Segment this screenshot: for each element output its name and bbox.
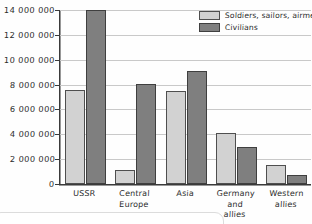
legend-label: Civilians: [225, 23, 258, 32]
bar: [287, 175, 307, 184]
chart-screenshot: 14 000 00012 000 00010 000 0008 000 0006…: [0, 0, 312, 224]
bar-group: [65, 10, 106, 184]
bar-group: [266, 10, 307, 184]
x-axis-category-label: Western allies: [254, 189, 312, 210]
y-axis-tick-label: 8 000 000: [9, 80, 55, 90]
y-axis-tick: [55, 60, 60, 61]
y-axis-tick: [55, 109, 60, 110]
bar: [266, 165, 286, 184]
y-axis-tick-label: 4 000 000: [9, 129, 55, 139]
y-axis-tick: [55, 85, 60, 86]
y-axis-tick-label: 12 000 000: [4, 30, 55, 40]
y-axis-tick-label: 6 000 000: [9, 104, 55, 114]
background-card-edge: [0, 212, 224, 224]
y-axis-tick-label: 10 000 000: [4, 55, 55, 65]
bar-group: [115, 10, 156, 184]
y-axis-tick: [55, 10, 60, 11]
y-axis-tick: [55, 184, 60, 185]
y-axis-tick: [55, 134, 60, 135]
y-axis-labels: 14 000 00012 000 00010 000 0008 000 0006…: [0, 10, 55, 185]
legend-label: Soldiers, sailors, airmen: [225, 11, 312, 20]
y-axis-tick: [55, 159, 60, 160]
bar-group: [216, 10, 257, 184]
legend-swatch: [199, 23, 220, 32]
bar: [187, 71, 207, 184]
bar: [237, 147, 257, 184]
y-axis-tick-label: 14 000 000: [4, 5, 55, 15]
legend-item: Civilians: [199, 23, 312, 32]
x-axis-line: [59, 184, 311, 185]
bar-group: [166, 10, 207, 184]
bar: [65, 90, 85, 184]
legend-item: Soldiers, sailors, airmen: [199, 11, 312, 20]
plot-area: [59, 10, 311, 185]
y-axis-tick: [55, 35, 60, 36]
bar: [216, 133, 236, 184]
bar: [86, 10, 106, 184]
bar: [166, 91, 186, 184]
bar: [115, 170, 135, 184]
legend-swatch: [199, 11, 220, 20]
bar: [136, 84, 156, 184]
y-axis-tick-label: 2 000 000: [9, 154, 55, 164]
chart-legend: Soldiers, sailors, airmenCivilians: [199, 11, 312, 32]
